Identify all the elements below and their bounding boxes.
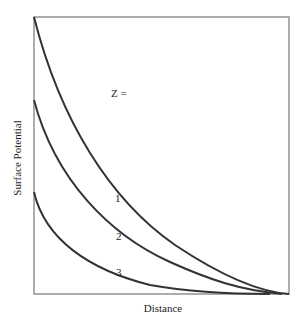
curve-2-label: 2 [116,230,122,242]
y-axis-label: Surface Potential [11,120,23,195]
curve-3-label: 3 [116,266,122,278]
curve-1-label: 1 [115,192,121,204]
plot-frame [34,17,289,294]
curve-1 [34,17,289,294]
x-axis-label: Distance [144,302,183,314]
chart-svg: Z = 1 2 3 Distance Surface Potential [0,0,303,325]
z-annotation: Z = [111,87,127,99]
curve-2 [34,100,282,294]
